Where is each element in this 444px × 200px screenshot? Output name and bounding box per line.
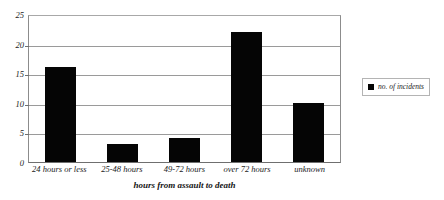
y-tick-label: 5 — [2, 129, 24, 138]
legend: no. of incidents — [362, 78, 430, 96]
bar-over-72-hours — [231, 32, 262, 162]
y-tick-label: 10 — [2, 100, 24, 109]
bars-layer — [29, 16, 340, 162]
bar-slot — [29, 16, 91, 162]
bar-slot — [91, 16, 153, 162]
bar-25-48-hours — [107, 144, 138, 162]
y-tick-label: 20 — [2, 41, 24, 50]
x-axis-title: hours from assault to death — [28, 180, 341, 190]
legend-label: no. of incidents — [378, 83, 424, 91]
bar-slot — [278, 16, 340, 162]
x-tick-label-24-hours-or-less: 24 hours or less — [28, 165, 91, 174]
y-tick-label: 25 — [2, 11, 24, 20]
bar-slot — [216, 16, 278, 162]
y-tick-label: 0 — [2, 159, 24, 168]
bar-unknown — [293, 103, 324, 162]
x-tick-label-over-72-hours: over 72 hours — [216, 165, 279, 174]
y-tick-label: 15 — [2, 70, 24, 79]
x-tick-label-unknown: unknown — [278, 165, 341, 174]
bar-slot — [153, 16, 215, 162]
bar-24-hours-or-less — [45, 67, 76, 162]
x-tick-label-25-48-hours: 25-48 hours — [91, 165, 154, 174]
legend-swatch-icon — [368, 84, 374, 90]
bar-chart: 25 20 15 10 5 0 — [0, 0, 444, 200]
x-tick-label-49-72-hours: 49-72 hours — [153, 165, 216, 174]
plot-area — [28, 15, 341, 163]
x-axis-labels: 24 hours or less 25-48 hours 49-72 hours… — [28, 165, 341, 174]
bar-49-72-hours — [169, 138, 200, 162]
y-axis: 25 20 15 10 5 0 — [0, 15, 24, 163]
